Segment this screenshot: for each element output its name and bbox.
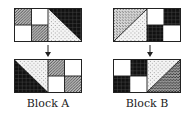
arrow-down-icon [145,45,155,57]
block-b-before [113,8,181,42]
block-a-label: Block A [14,97,82,110]
block-a-before-pattern [15,9,81,41]
block-b-after [113,59,181,93]
arrow-down-icon [43,45,53,57]
block-a-after-pattern [15,60,81,92]
block-b-after-pattern [114,60,180,92]
block-b-label: Block B [113,97,181,110]
block-a-before [14,8,82,42]
block-b-before-pattern [114,9,180,41]
block-a-after [14,59,82,93]
